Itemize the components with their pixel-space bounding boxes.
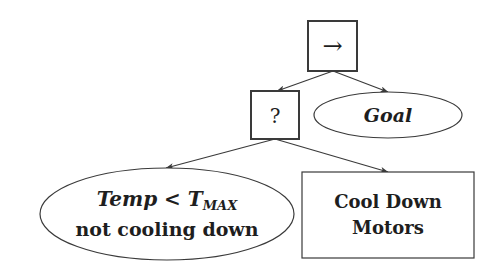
goal-node: Goal <box>314 92 462 138</box>
sequence-arrow-icon: → <box>322 32 342 60</box>
cool-down-label-line2: Motors <box>352 217 424 238</box>
cool-down-motors-node: Cool Down Motors <box>302 172 474 258</box>
behavior-tree-diagram: → ? Goal Temp < TMAX not cooling down Co… <box>0 0 494 273</box>
edge-sequence-to-fallback <box>277 71 333 91</box>
cool-down-motors-box <box>302 172 474 258</box>
edge-fallback-to-temp-condition <box>166 139 275 168</box>
cool-down-label-line1: Cool Down <box>334 191 442 212</box>
temp-variable: Temp <box>97 187 157 211</box>
temp-condition-line2: not cooling down <box>75 218 258 240</box>
edge-fallback-to-cool-down <box>275 139 388 172</box>
goal-label: Goal <box>364 104 412 126</box>
fallback-question-icon: ? <box>270 104 281 128</box>
t-max-subscript: MAX <box>202 198 238 213</box>
fallback-node: ? <box>251 91 299 139</box>
sequence-node: → <box>308 21 357 71</box>
less-than-operator: < <box>157 187 188 211</box>
temp-condition-node: Temp < TMAX not cooling down <box>40 168 294 260</box>
edge-sequence-to-goal <box>333 71 388 92</box>
temp-condition-ellipse <box>40 168 294 260</box>
